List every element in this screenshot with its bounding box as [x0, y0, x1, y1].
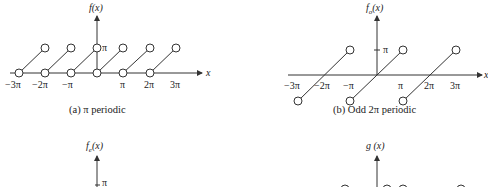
- panel-a-y-label: f(x): [89, 2, 103, 13]
- panel-a-xtick: −2π: [32, 79, 48, 90]
- panel-b-xtick: −2π: [314, 80, 330, 91]
- panel-d-plot: [341, 156, 465, 187]
- panel-d-y-label: g (x): [366, 140, 385, 151]
- panel-a-xtick: 2π: [144, 79, 154, 90]
- panel-b-xtick: 3π: [450, 80, 460, 91]
- panel-b-xtick: 2π: [424, 80, 434, 91]
- panel-b-x-label: x: [484, 69, 488, 80]
- panel-a-ytick-label: π: [102, 42, 107, 53]
- panel-b-xtick: −3π: [284, 80, 300, 91]
- panel-a-xtick: −π: [62, 79, 73, 90]
- panel-b-y-label: fo(x): [366, 2, 383, 16]
- panel-b-plot: [288, 16, 482, 105]
- panel-a-xtick: 3π: [170, 79, 180, 90]
- panel-b-ytick-label: π: [383, 44, 388, 55]
- panel-b-xtick: −π: [343, 80, 354, 91]
- panel-b-caption: (b) Odd 2π periodic: [333, 104, 416, 115]
- panel-c-plot: [95, 156, 100, 187]
- panel-a-x-label: x: [206, 67, 210, 78]
- panel-a-xtick: π: [120, 79, 125, 90]
- panel-c-y-label: fe(x): [86, 140, 103, 154]
- panel-a-caption: (a) π periodic: [69, 104, 126, 115]
- panel-d-open-circles: [341, 185, 465, 187]
- figure-canvas: [0, 0, 488, 187]
- panel-c-ytick-label: π: [102, 177, 107, 187]
- panel-b-xtick: π: [398, 80, 403, 91]
- panel-a-xtick: −3π: [5, 79, 21, 90]
